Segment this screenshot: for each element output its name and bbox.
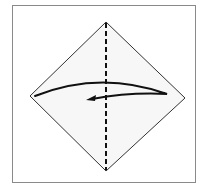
origami-diagram (0, 0, 208, 195)
